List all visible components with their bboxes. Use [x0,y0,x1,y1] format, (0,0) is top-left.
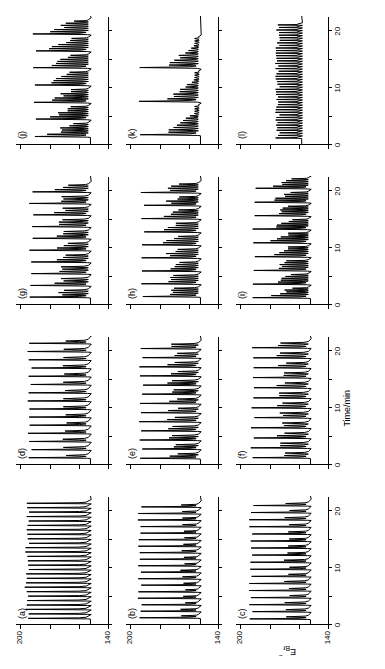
y-tick [20,145,21,149]
trace-d [16,336,108,464]
x-tick [328,567,332,568]
x-tick [328,144,332,145]
x-tick [218,464,222,465]
trace-h [126,176,218,304]
trace-j [16,16,108,144]
x-axis-line [108,17,109,145]
y-axis-line [236,144,328,145]
x-tick [218,596,222,597]
x-tick [108,624,112,625]
y-tick [108,305,109,309]
plot-panel-k: (k) [126,15,240,145]
x-axis-line [218,17,219,145]
scientific-figure: 140200(a)140200(b)14020001020(c)(d)(e)01… [0,0,385,669]
x-axis-line [108,337,109,465]
x-tick [218,304,222,305]
y-tick [160,145,161,149]
x-tick [328,304,332,305]
y-tick [50,305,51,309]
y-tick-label: 200 [126,631,134,655]
x-axis-line [108,177,109,305]
trace-k [126,16,218,144]
x-tick-label: 20 [334,339,342,363]
plot-panel-c: 14020001020(c) [236,495,350,625]
y-tick [189,625,190,629]
y-tick [79,625,80,629]
y-tick-label: 200 [236,631,244,655]
y-tick [328,305,329,309]
trace-i [236,176,328,304]
x-axis-line [328,497,329,625]
plot-panel-d: (d) [16,335,130,465]
x-tick [218,219,222,220]
trace-a [16,496,108,624]
y-tick [299,145,300,149]
x-tick [108,379,112,380]
y-tick [50,625,51,629]
y-tick [130,465,131,469]
x-tick [218,350,222,351]
y-axis-line [126,624,218,625]
x-tick [328,510,332,511]
x-tick-label: 10 [334,396,342,420]
y-axis-line [16,464,108,465]
y-tick [189,145,190,149]
x-tick-label: 0 [334,613,342,637]
y-tick [108,625,109,629]
x-tick [328,436,332,437]
y-axis-line [126,144,218,145]
plot-panel-j: (j) [16,15,130,145]
x-tick [328,596,332,597]
y-axis-line [126,304,218,305]
y-tick [160,305,161,309]
panel-grid: 140200(a)140200(b)14020001020(c)(d)(e)01… [0,0,385,669]
x-tick-label: 20 [334,179,342,203]
x-axis-line [218,497,219,625]
y-tick [240,465,241,469]
x-tick [328,624,332,625]
x-tick [108,407,112,408]
y-tick [79,305,80,309]
x-axis-line [328,177,329,305]
y-tick [20,625,21,629]
x-tick [328,219,332,220]
trace-l [236,16,328,144]
plot-panel-g: (g) [16,175,130,305]
x-tick [108,436,112,437]
x-tick-label: 10 [334,76,342,100]
x-tick [218,116,222,117]
plot-panel-e: (e) [126,335,240,465]
x-tick-label: 0 [334,293,342,317]
trace-f [236,336,328,464]
x-tick-label: 10 [334,236,342,260]
y-tick [20,305,21,309]
x-tick-label: 20 [334,499,342,523]
x-tick-label: 0 [334,453,342,477]
x-tick [328,30,332,31]
y-tick [240,145,241,149]
y-axis-line [16,304,108,305]
x-tick [218,276,222,277]
y-tick [130,145,131,149]
x-tick [218,144,222,145]
y-tick [218,305,219,309]
y-tick [270,305,271,309]
x-tick [108,596,112,597]
x-tick [108,350,112,351]
x-tick [328,87,332,88]
x-tick [218,30,222,31]
x-tick [108,59,112,60]
y-axis-line [236,624,328,625]
x-tick [328,379,332,380]
trace-g [16,176,108,304]
x-tick [218,190,222,191]
y-tick [79,145,80,149]
x-tick [328,276,332,277]
x-tick [218,624,222,625]
y-axis-line [236,464,328,465]
y-axis-line [16,624,108,625]
y-axis-line [236,304,328,305]
plot-panel-h: (h) [126,175,240,305]
x-tick [218,59,222,60]
x-tick [328,464,332,465]
